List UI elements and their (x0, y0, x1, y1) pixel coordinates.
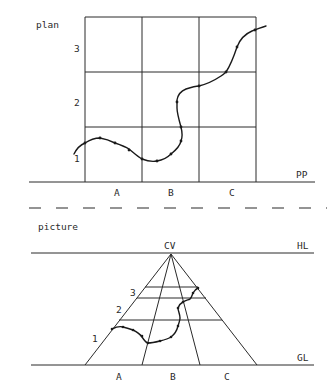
plan-row-label-2: 2 (74, 97, 80, 108)
picture-col-label-a: A (116, 371, 122, 382)
plan-title: plan (36, 19, 59, 30)
picture-title: picture (38, 221, 78, 232)
plan-curve-points (84, 29, 257, 163)
perspective-diagram: plan PP 3 2 1 A B C (0, 0, 327, 390)
plan-grid (85, 17, 256, 182)
plan-col-label-c: C (229, 187, 235, 198)
cv-label: CV (164, 240, 176, 251)
picture-col-label-c: C (224, 371, 230, 382)
plan-row-label-3: 3 (74, 43, 80, 54)
picture-row-label-2: 2 (116, 304, 122, 315)
plan-col-label-b: B (168, 187, 174, 198)
plan-row-label-1: 1 (74, 153, 80, 164)
picture-row-label-3: 3 (130, 287, 136, 298)
picture-view: picture HL CV GL 1 2 3 A B C (31, 221, 314, 382)
plan-col-label-a: A (114, 187, 120, 198)
orthogonal-lines (85, 254, 257, 365)
plan-view: plan PP 3 2 1 A B C (29, 17, 315, 198)
picture-col-label-b: B (170, 371, 176, 382)
picture-row-label-1: 1 (92, 333, 98, 344)
pp-label: PP (296, 169, 308, 180)
hl-label: HL (297, 240, 309, 251)
gl-label: GL (297, 352, 309, 363)
